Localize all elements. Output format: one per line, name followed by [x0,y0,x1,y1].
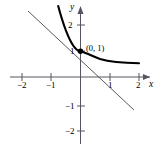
x-tick-label--2: −2 [17,81,27,90]
graph-figure: −2 −1 1 2 2 1 −1 −2 x y (0, 1) [0,0,161,150]
x-tick-label--1: −1 [46,81,56,90]
y-tick-label-2: 2 [68,21,73,30]
x-tick-label-2: 2 [136,81,141,90]
y-axis-label: y [70,3,74,13]
y-tick-label-1: 1 [70,47,75,56]
coordinate-plot [0,0,161,150]
y-tick-label--2: −2 [65,127,75,136]
y-axis-arrow [78,6,84,14]
y-tick-label--1: −1 [65,102,75,111]
x-axis-label: x [149,80,153,90]
x-tick-label-1: 1 [108,81,113,90]
point-annotation-label: (0, 1) [86,44,104,53]
tangency-point-marker [78,49,83,54]
